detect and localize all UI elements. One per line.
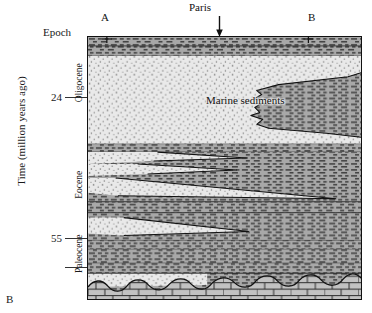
unit-label-marine: Marine sediments xyxy=(206,94,285,106)
down-arrow-icon xyxy=(215,16,224,37)
epoch-label-eocene: Eocene xyxy=(75,150,85,220)
figure-part-label: B xyxy=(6,294,13,305)
y-axis-title: Time (million years ago) xyxy=(15,56,27,206)
epoch-label-paleocene: Paleocene xyxy=(75,214,85,294)
y-tick-label-55: 55 xyxy=(40,233,62,244)
section-marker-b: B xyxy=(308,12,315,23)
figure-stratigraphic-cross-section: A B Paris Epoch Time (million years ago)… xyxy=(0,0,372,313)
epoch-label-oligocene: Oligocene xyxy=(75,48,85,118)
y-tick-label-24: 24 xyxy=(40,92,62,103)
cross-section-plot-area: Marine sediments Nonmarine sediments Cre… xyxy=(87,36,362,300)
city-label-paris: Paris xyxy=(189,2,211,13)
unit-label-nonmarine: Nonmarine sediments xyxy=(346,125,362,149)
unit-label-nonmarine-line1: Nonmarine xyxy=(346,125,362,137)
epoch-column-header: Epoch xyxy=(43,27,71,38)
strata-drawing xyxy=(88,37,361,299)
unit-label-nonmarine-line2: sediments xyxy=(346,137,362,149)
section-marker-a: A xyxy=(101,12,109,23)
